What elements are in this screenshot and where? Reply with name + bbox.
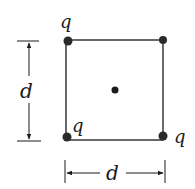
charge-label-bottom-right: q [174,126,186,147]
charge-label-bottom-left: q [72,115,84,136]
charge-label-top-left: q [60,11,72,32]
horizontal-dimension-label: d [106,161,119,185]
center-point-dot [112,87,119,94]
vertical-dimension-label: d [20,79,33,103]
charge-dot-bottom-left [63,133,72,142]
square-charge-diagram: q q q d d [0,0,195,189]
charge-dot-top-left [64,37,73,46]
charge-dot-bottom-right [159,132,168,141]
point-dot-top-right [159,36,167,44]
